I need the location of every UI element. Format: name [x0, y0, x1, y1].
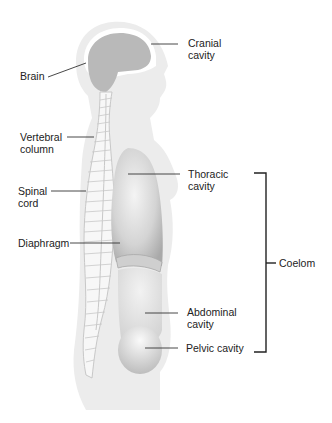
body-cavities-diagram: Brain Cranial cavity Vertebral column Sp… — [0, 0, 332, 423]
label-thoracic-cavity: Thoracic cavity — [188, 168, 228, 192]
coelom-bracket — [254, 173, 276, 352]
label-spinal-cord: Spinal cord — [18, 185, 47, 209]
label-coelom: Coelom — [279, 257, 315, 269]
pelvic-cavity-shape — [118, 326, 162, 374]
label-abdominal-cavity: Abdominal cavity — [187, 306, 237, 330]
label-brain: Brain — [20, 70, 45, 82]
label-diaphragm: Diaphragm — [18, 237, 69, 249]
label-vertebral-column: Vertebral column — [20, 131, 62, 155]
anatomy-illustration — [0, 0, 332, 423]
label-pelvic-cavity: Pelvic cavity — [186, 342, 244, 354]
label-cranial-cavity: Cranial cavity — [188, 37, 221, 61]
